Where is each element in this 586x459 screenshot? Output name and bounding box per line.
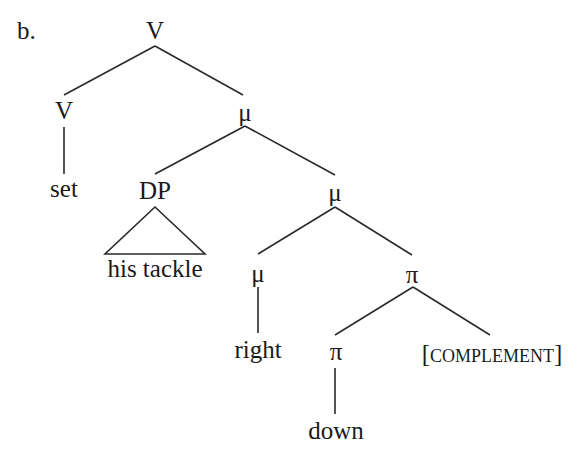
node-pi2: π — [330, 339, 343, 364]
node-v-head: V — [55, 98, 73, 123]
node-mu2: μ — [328, 180, 341, 205]
dp-triangle — [105, 207, 205, 254]
tree-edges — [0, 0, 586, 459]
leaf-down: down — [308, 418, 364, 443]
edge-mu1-to-mu2 — [245, 126, 335, 175]
node-dp: DP — [139, 178, 171, 203]
node-mu3: μ — [251, 261, 264, 286]
leaf-right: right — [234, 337, 281, 362]
node-root-v: V — [146, 18, 164, 43]
leaf-his-tackle: his tackle — [107, 256, 202, 281]
bracket-close: ] — [554, 340, 562, 367]
edge-root-to-mu1 — [155, 46, 243, 95]
edge-mu2-to-mu3 — [258, 207, 335, 254]
node-pi1: π — [406, 262, 419, 287]
edge-pi1-to-pi2 — [335, 287, 413, 335]
edge-pi1-to-complement — [413, 287, 490, 335]
example-label: b. — [17, 18, 36, 43]
edge-root-to-v — [64, 46, 155, 95]
complement-text: complement — [430, 340, 554, 367]
syntax-tree-diagram: b. V V set μ DP his tackle μ μ right π π… — [0, 0, 586, 459]
leaf-set: set — [50, 176, 78, 201]
node-mu1: μ — [238, 100, 251, 125]
edge-mu1-to-dp — [155, 126, 245, 174]
edge-mu2-to-pi1 — [335, 207, 412, 255]
leaf-complement: [complement] — [422, 341, 563, 366]
